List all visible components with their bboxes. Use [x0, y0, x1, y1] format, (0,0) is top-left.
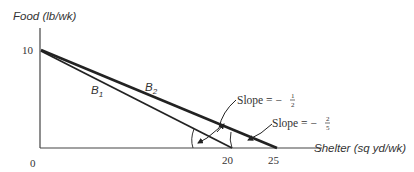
- origin-label: 0: [30, 157, 36, 169]
- b1-label: B1: [91, 84, 103, 99]
- slope1-arrow-b1: [198, 138, 207, 143]
- budget-line-b1: [41, 51, 232, 148]
- slope1-den: 2: [291, 101, 295, 109]
- budget-line-chart: Food (lb/wk) Shelter (sq yd/wk) 0 10 20 …: [0, 0, 414, 172]
- slope2-den: 5: [326, 124, 330, 132]
- angle-arc-b1: [192, 129, 194, 148]
- x-axis-label: Shelter (sq yd/wk): [314, 142, 406, 154]
- slope2-num: 2: [326, 115, 330, 123]
- slope1-text: Slope = −: [237, 94, 282, 107]
- x-tick-20: 20: [222, 154, 234, 166]
- y-tick-10: 10: [22, 44, 34, 56]
- slope2-text: Slope = −: [272, 117, 317, 130]
- y-axis-label: Food (lb/wk): [13, 10, 76, 22]
- slope1-leader-split: [207, 128, 219, 138]
- angle-arc-b2: [230, 132, 232, 148]
- slope1-num: 1: [291, 92, 295, 100]
- x-tick-25: 25: [268, 154, 280, 166]
